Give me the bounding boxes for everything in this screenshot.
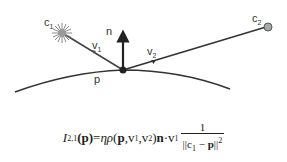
formula-arg-p: p <box>117 130 124 146</box>
label-v2: v2 <box>147 45 157 59</box>
formula-denominator: ||c1 − p||2 <box>181 133 225 155</box>
surface-point-p <box>120 67 127 74</box>
formula-numerator: 1 <box>198 121 208 133</box>
light-source-c1-icon <box>52 23 72 43</box>
formula-I-sub: 2,1 <box>67 134 77 143</box>
label-n: n <box>106 25 112 37</box>
label-c1: c1 <box>44 16 54 30</box>
formula-n: n <box>157 130 164 146</box>
formula-equals: = <box>93 130 100 146</box>
formula-den-minus: − <box>196 138 208 150</box>
label-c2: c2 <box>252 12 262 26</box>
formula-lhs-arg: (p) <box>77 130 93 146</box>
point-c2 <box>264 23 272 31</box>
formula-v1-sub: 1 <box>175 134 179 143</box>
irradiance-formula: I2,1(p) = ηρ(p, v1, v2)n · v1 1 ||c1 − p… <box>0 118 287 158</box>
formula-fraction: 1 ||c1 − p||2 <box>181 121 225 155</box>
label-v1: v1 <box>92 39 102 53</box>
shading-diagram: c1 c2 n v1 v2 p <box>0 0 287 110</box>
formula-den-sup: 2 <box>218 136 222 145</box>
formula-den-open: ||c <box>183 138 192 150</box>
vector-v2-line <box>123 27 266 70</box>
label-p: p <box>94 73 100 85</box>
